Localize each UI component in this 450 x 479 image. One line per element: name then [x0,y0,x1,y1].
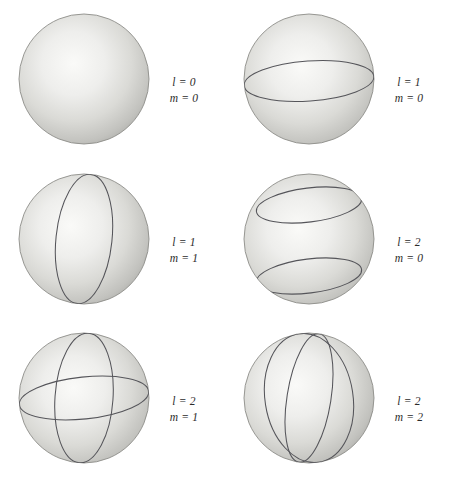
panel-l2-m2: l = 2 m = 2 [225,319,450,479]
panel-l1-m1: l = 1 m = 1 [0,160,225,320]
label-m-line: m = 1 [151,409,217,425]
sphere-l1-m1 [16,171,152,307]
panel-l1-m0: l = 1 m = 0 [225,0,450,160]
panel-l0-m0: l = 0 m = 0 [0,0,225,160]
panel-l2-m0: l = 2 m = 0 [225,160,450,320]
label-l1-m1: l = 1 m = 1 [151,234,217,266]
label-l-line: l = 2 [376,234,442,250]
sphere-l1-m0 [241,11,377,147]
panel-l2-m1: l = 2 m = 1 [0,319,225,479]
label-l-line: l = 2 [151,393,217,409]
label-m-line: m = 0 [151,90,217,106]
label-m-line: m = 0 [376,90,442,106]
label-l-line: l = 2 [376,393,442,409]
label-l1-m0: l = 1 m = 0 [376,74,442,106]
spherical-harmonics-figure: l = 0 m = 0 [0,0,450,479]
label-l-line: l = 1 [151,234,217,250]
label-l-line: l = 1 [376,74,442,90]
label-m-line: m = 0 [376,250,442,266]
sphere-l2-m1 [16,330,152,466]
label-l2-m2: l = 2 m = 2 [376,393,442,425]
sphere-l2-m2 [241,330,377,466]
label-l2-m0: l = 2 m = 0 [376,234,442,266]
sphere-l0-m0 [16,11,152,147]
label-l0-m0: l = 0 m = 0 [151,74,217,106]
label-l2-m1: l = 2 m = 1 [151,393,217,425]
label-l-line: l = 0 [151,74,217,90]
label-m-line: m = 1 [151,250,217,266]
sphere-l2-m0 [241,171,377,307]
label-m-line: m = 2 [376,409,442,425]
